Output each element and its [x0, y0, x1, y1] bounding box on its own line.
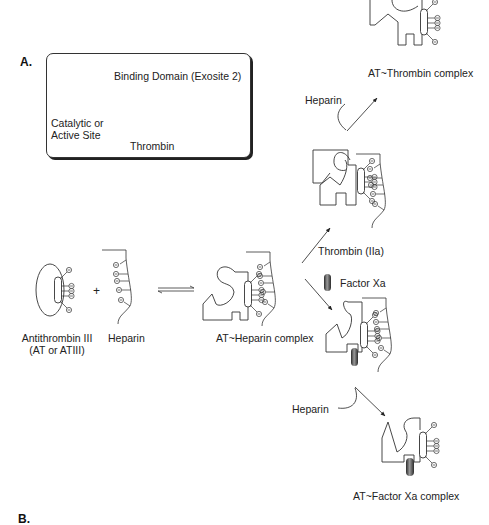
- bound-factor-xa-icon: [351, 348, 358, 366]
- panel-label-a: A.: [20, 55, 32, 69]
- heparin-release-label-top: Heparin: [305, 94, 342, 106]
- panel-label-b: B.: [18, 512, 30, 525]
- at-thrombin-complex-label: AT~Thrombin complex: [368, 67, 473, 79]
- heparin-release-arrow-bottom: [338, 387, 385, 416]
- branch-arrows: [302, 228, 332, 310]
- equilibrium-arrow-icon: [158, 286, 194, 293]
- thrombin-legend-name: Thrombin: [130, 140, 174, 152]
- antithrombin-label-line2: (AT or ATIII): [17, 344, 97, 356]
- catalytic-label-line1: Catalytic or: [51, 117, 104, 129]
- at-heparin-complex-label: AT~Heparin complex: [216, 332, 314, 344]
- antithrombin-icon: [36, 264, 74, 316]
- factor-xa-label: Factor Xa: [340, 277, 386, 289]
- at-thrombin-complex-icon: [370, 0, 440, 45]
- catalytic-label-line2: Active Site: [51, 129, 101, 141]
- binding-domain-label: Binding Domain (Exosite 2): [114, 70, 241, 82]
- complex-factor-xa-icon: [406, 458, 414, 476]
- antithrombin-label-line1: Antithrombin III: [17, 332, 97, 344]
- factor-xa-icon: [324, 274, 331, 291]
- heparin-release-arrow-top: [338, 98, 377, 131]
- at-factor-xa-complex-label: AT~Factor Xa complex: [353, 490, 459, 502]
- at-heparin-factor-xa-icon: [326, 298, 391, 372]
- thrombin-iia-label: Thrombin (IIa): [318, 245, 384, 257]
- at-heparin-complex-icon: [203, 252, 275, 326]
- heparin-label: Heparin: [108, 332, 145, 344]
- heparin-release-label-bottom: Heparin: [292, 403, 329, 415]
- plus-sign: +: [93, 285, 100, 297]
- at-heparin-thrombin-icon: [313, 150, 385, 228]
- heparin-icon: [102, 250, 131, 324]
